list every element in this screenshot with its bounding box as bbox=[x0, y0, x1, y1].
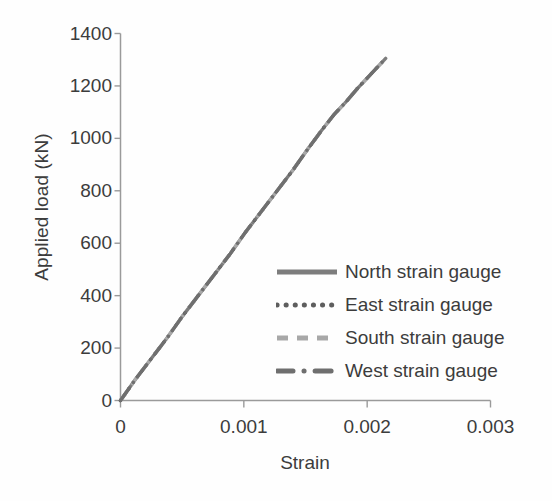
legend-label: East strain gauge bbox=[345, 295, 493, 314]
plot-area bbox=[0, 0, 552, 501]
legend-item: South strain gauge bbox=[276, 321, 508, 354]
legend-item: West strain gauge bbox=[276, 354, 508, 387]
legend-item: East strain gauge bbox=[276, 288, 508, 321]
legend-label: South strain gauge bbox=[345, 328, 505, 347]
legend-label: West strain gauge bbox=[345, 361, 498, 380]
legend-swatch-dotted bbox=[276, 298, 338, 312]
legend: North strain gaugeEast strain gaugeSouth… bbox=[276, 255, 508, 387]
legend-item: North strain gauge bbox=[276, 255, 508, 288]
legend-swatch-dashed bbox=[276, 331, 338, 345]
legend-swatch-solid bbox=[276, 265, 338, 279]
legend-label: North strain gauge bbox=[345, 262, 501, 281]
chart-figure: Applied load (kN) 0200400600800100012001… bbox=[0, 0, 552, 501]
legend-swatch-dashdot bbox=[276, 364, 338, 378]
